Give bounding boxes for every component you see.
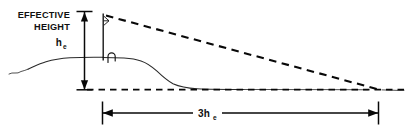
height-dimension-arrow-down-icon (81, 80, 88, 90)
effective-height-label-line2: HEIGHT (34, 22, 70, 32)
effective-height-diagram: EFFECTIVE HEIGHT h e 3h e (0, 0, 407, 130)
height-dimension-arrow-up-icon (81, 12, 88, 22)
sight-ray-dashed-line (106, 16, 378, 90)
effective-height-label-line1: EFFECTIVE (18, 10, 70, 20)
height-symbol-label: h (56, 37, 62, 48)
terrain-profile-ridge (28, 57, 103, 69)
span-symbol-subscript: e (213, 114, 217, 121)
terrain-profile-plateau (103, 57, 244, 89)
span-symbol-label: 3h (198, 108, 210, 119)
span-dimension-arrow-right-icon (368, 109, 378, 117)
height-symbol-subscript: e (63, 43, 67, 50)
diagram-canvas: EFFECTIVE HEIGHT h e 3h e (0, 0, 407, 130)
terrain-profile-left-tail (9, 69, 28, 74)
span-dimension-arrow-left-icon (103, 109, 113, 117)
